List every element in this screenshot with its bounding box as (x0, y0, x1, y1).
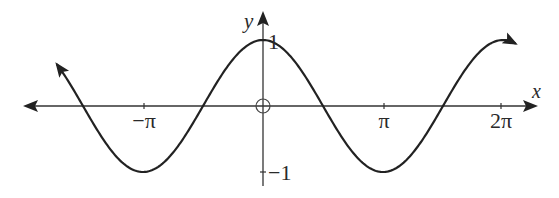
cosine-graph: y x 1 −1 −π π 2π (0, 0, 559, 198)
x-axis-label: x (531, 80, 541, 102)
y-axis-label: y (242, 9, 254, 33)
tick-label-y1: 1 (268, 29, 279, 54)
tick-label-neg-pi: −π (132, 108, 156, 133)
tick-label-pi: π (378, 108, 389, 133)
tick-label-2pi: 2π (490, 108, 512, 133)
tick-label-ym1: −1 (268, 160, 291, 185)
